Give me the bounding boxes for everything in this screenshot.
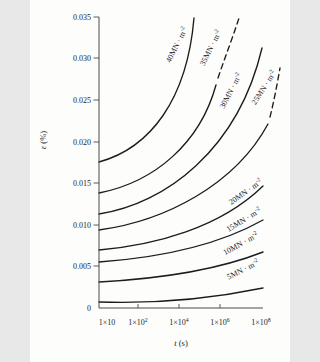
y-tick-label: 0 xyxy=(87,304,91,313)
curve-35mn xyxy=(99,85,216,193)
curve-label-25mn: 25MN · m-2 xyxy=(249,68,279,106)
y-tick-label: 0.030 xyxy=(73,54,91,63)
y-tick-labels: 0.035 0.030 0.025 0.020 0.015 0.010 0.00… xyxy=(73,13,91,313)
y-tick-label: 0.020 xyxy=(73,138,91,147)
x-tick-labels: 1×10 1×102 1×104 1×106 1×108 xyxy=(99,317,271,327)
y-tick-label: 0.005 xyxy=(73,262,91,271)
y-tick-label: 0.025 xyxy=(73,96,91,105)
curve-label-40mn: 40MN · m-2 xyxy=(163,25,190,64)
y-axis-title: ε (%) xyxy=(38,131,48,150)
curve-label-20mn: 20MN · m-2 xyxy=(226,176,264,207)
curve-35mn-dashed-extension xyxy=(218,18,239,78)
x-tick-label: 1×10 xyxy=(99,318,116,327)
curve-label-30mn: 30MN · m-2 xyxy=(217,71,244,110)
y-tick-label: 0.035 xyxy=(73,13,91,22)
x-axis-title: t (s) xyxy=(174,338,188,348)
x-tick-label: 1×104 xyxy=(169,317,189,327)
x-axis-ticks xyxy=(138,304,220,308)
curve-label-10mn: 10MN · m-2 xyxy=(221,229,260,257)
curve-5mn xyxy=(99,288,263,302)
y-tick-label: 0.015 xyxy=(73,179,91,188)
y-tick-label: 0.010 xyxy=(73,221,91,230)
curve-label-35mn: 35MN · m-2 xyxy=(197,28,224,67)
creep-chart: 40MN · m-2 35MN · m-2 30MN · m-2 25MN · … xyxy=(30,0,290,362)
figure-creep-curves: 40MN · m-2 35MN · m-2 30MN · m-2 25MN · … xyxy=(30,0,290,362)
x-tick-label: 1×102 xyxy=(128,317,148,327)
y-axis-ticks xyxy=(94,17,100,266)
x-tick-label: 1×108 xyxy=(251,317,271,327)
curve-label-5mn: 5MN · m-2 xyxy=(225,257,261,282)
x-tick-label: 1×106 xyxy=(210,317,230,327)
